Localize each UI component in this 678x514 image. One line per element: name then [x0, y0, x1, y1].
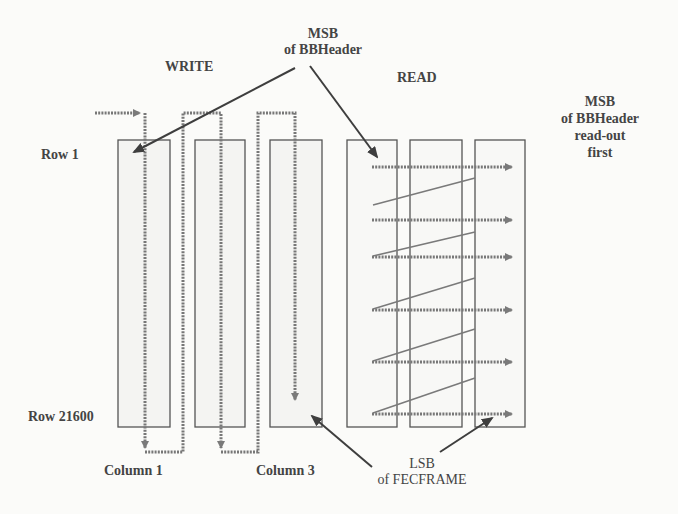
row-21600-label: Row 21600	[28, 409, 94, 425]
row-1-label: Row 1	[41, 147, 79, 163]
read-heading: READ	[397, 70, 437, 86]
interleaver-diagram	[0, 0, 678, 514]
msb-label-line1: MSB	[284, 26, 362, 42]
msb-readout-line3: read-out	[561, 127, 639, 144]
lsb-label-line2: of FECFRAME	[377, 472, 466, 488]
lsb-label-line1: LSB	[377, 456, 466, 472]
write-heading: WRITE	[165, 59, 213, 75]
read-column-boxes	[347, 140, 525, 427]
msb-label-line2: of BBHeader	[284, 42, 362, 58]
msb-readout-label: MSB of BBHeader read-out first	[561, 93, 639, 161]
msb-bbheader-label: MSB of BBHeader	[284, 26, 362, 58]
column-1-label: Column 1	[104, 463, 163, 479]
msb-readout-line4: first	[561, 144, 639, 161]
lsb-fecframe-label: LSB of FECFRAME	[377, 456, 466, 488]
read-column-3	[475, 140, 525, 427]
msb-readout-line2: of BBHeader	[561, 110, 639, 127]
read-column-1	[347, 140, 397, 427]
msb-readout-line1: MSB	[561, 93, 639, 110]
column-3-label: Column 3	[256, 463, 315, 479]
